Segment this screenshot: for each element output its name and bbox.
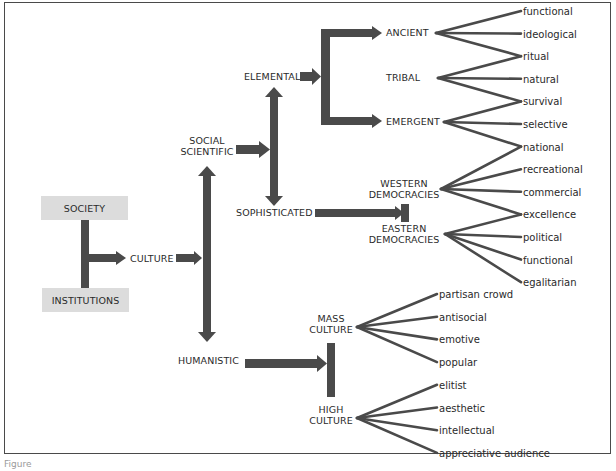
humanistic-label: HUMANISTIC <box>178 355 239 366</box>
spine-double-arrow <box>198 166 216 342</box>
leaf-column-upper: functionalideologicalritualnaturalsurviv… <box>523 6 583 288</box>
fan-line <box>438 78 521 79</box>
eastern-democracies-line2: DEMOCRACIES <box>369 234 440 245</box>
fan-line <box>445 214 521 234</box>
fan-line <box>444 101 521 122</box>
leaf-label: functional <box>523 6 573 17</box>
leaf-label: excellence <box>523 209 576 220</box>
leaf-label: commercial <box>523 187 581 198</box>
leaf-label: selective <box>523 119 568 130</box>
leaf-label: political <box>523 232 562 243</box>
leaf-label: survival <box>523 96 562 107</box>
high-culture-line2: CULTURE <box>309 415 353 426</box>
high-culture-line1: HIGH <box>319 404 344 415</box>
leaf-label: natural <box>523 74 559 85</box>
fan-line <box>436 33 521 34</box>
arrow-to-culture <box>89 251 126 265</box>
leaf-label: intellectual <box>439 425 495 436</box>
culture-taxonomy-diagram: SOCIETY INSTITUTIONS CULTURE SOCIAL SCIE… <box>0 0 616 471</box>
fan-line <box>438 56 521 78</box>
mass-culture-line2: CULTURE <box>309 324 353 335</box>
leaf-label: ritual <box>523 51 549 62</box>
arrow-social-scientific <box>236 141 270 158</box>
society-label: SOCIETY <box>64 203 105 214</box>
fan-line <box>436 11 521 33</box>
culture-label: CULTURE <box>130 253 174 264</box>
tribal-label: TRIBAL <box>385 72 421 83</box>
leaf-label: appreciative audience <box>439 448 550 459</box>
leaf-label: ideological <box>523 29 577 40</box>
western-democracies-line1: WESTERN <box>380 178 428 189</box>
leaf-label: functional <box>523 255 573 266</box>
fan-line <box>445 234 521 282</box>
root-connector-bar <box>81 220 89 288</box>
leaf-label: egalitarian <box>523 277 577 288</box>
fan-line <box>436 33 521 56</box>
leaf-label: elitist <box>439 380 467 391</box>
fan-line <box>441 169 521 189</box>
eastern-democracies-line1: EASTERN <box>382 223 427 234</box>
fan-line <box>444 122 521 147</box>
leaf-column-lower: partisan crowdantisocialemotivepopularel… <box>439 289 550 459</box>
leaf-label: recreational <box>523 164 583 175</box>
fan-line <box>441 189 521 214</box>
elemental-bracket <box>321 26 382 128</box>
social-scientific-label-line1: SOCIAL <box>189 135 225 146</box>
arrow-culture-to-spine <box>176 251 202 265</box>
fan-line <box>444 122 521 124</box>
institutions-label: INSTITUTIONS <box>52 295 120 306</box>
fan-line <box>438 78 521 101</box>
arrow-elemental <box>300 68 321 85</box>
leaf-label: emotive <box>439 334 480 345</box>
elemental-label: ELEMENTAL <box>244 71 301 82</box>
leaf-label: aesthetic <box>439 403 485 414</box>
leaf-label: popular <box>439 357 478 368</box>
leaf-label: national <box>523 142 564 153</box>
mass-culture-line1: MASS <box>317 313 344 324</box>
social-scientific-label-line2: SCIENTIFIC <box>180 146 233 157</box>
leaf-label: antisocial <box>439 312 487 323</box>
arrow-sophisticated <box>315 204 409 222</box>
emergent-label: EMERGENT <box>386 116 440 127</box>
figure-caption: Figure <box>4 459 31 469</box>
fan-line <box>441 147 521 189</box>
ancient-label: ANCIENT <box>386 27 429 38</box>
arrow-humanistic <box>245 343 335 397</box>
sophisticated-label: SOPHISTICATED <box>236 207 313 218</box>
western-democracies-line2: DEMOCRACIES <box>369 189 440 200</box>
elemental-sophisticated-double-arrow <box>265 87 283 206</box>
leaf-label: partisan crowd <box>439 289 513 300</box>
fan-line <box>441 189 521 192</box>
